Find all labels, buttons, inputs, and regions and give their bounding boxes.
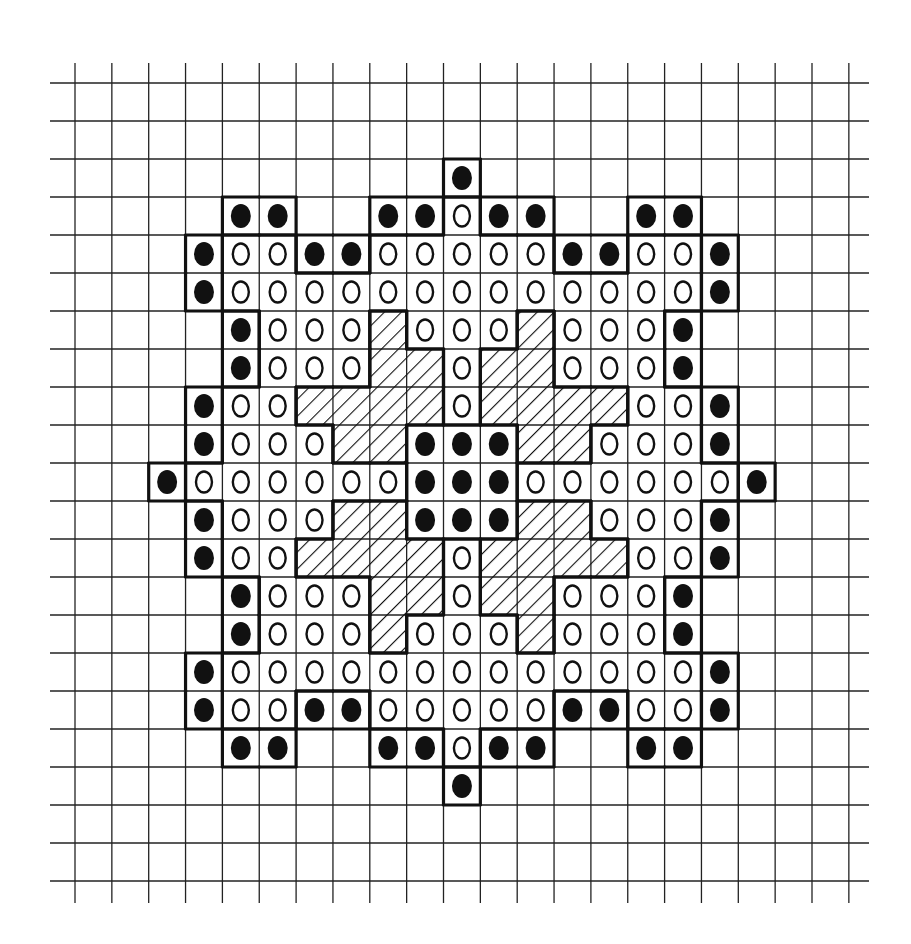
open-bead-icon <box>638 548 654 569</box>
filled-bead-icon <box>194 546 214 570</box>
open-bead-icon <box>270 434 286 455</box>
open-bead-icon <box>270 244 286 265</box>
open-bead-icon <box>380 472 396 493</box>
hatched-cell <box>554 425 591 463</box>
filled-bead-icon <box>452 508 472 532</box>
open-bead-icon <box>601 510 617 531</box>
filled-bead-icon <box>415 470 435 494</box>
filled-bead-icon <box>636 204 656 228</box>
filled-bead-icon <box>747 470 767 494</box>
hatched-cell <box>480 387 517 425</box>
open-bead-icon <box>233 282 249 303</box>
filled-bead-icon <box>194 660 214 684</box>
bead-grid-canvas <box>0 0 911 944</box>
open-bead-icon <box>417 662 433 683</box>
hatched-cell <box>333 425 370 463</box>
hatched-cell <box>370 577 407 615</box>
open-bead-icon <box>454 700 470 721</box>
open-bead-icon <box>564 472 580 493</box>
open-bead-icon <box>601 320 617 341</box>
filled-bead-icon <box>710 660 730 684</box>
filled-bead-icon <box>710 546 730 570</box>
filled-bead-icon <box>194 280 214 304</box>
open-bead-icon <box>307 510 323 531</box>
hatched-cell <box>296 387 333 425</box>
open-bead-icon <box>601 358 617 379</box>
filled-bead-icon <box>415 204 435 228</box>
filled-bead-icon <box>231 318 251 342</box>
open-bead-icon <box>270 358 286 379</box>
hatched-cell <box>517 501 554 539</box>
open-bead-icon <box>675 700 691 721</box>
hatched-cell <box>591 539 628 577</box>
hatched-cell <box>554 539 591 577</box>
open-bead-icon <box>638 396 654 417</box>
open-bead-icon <box>270 472 286 493</box>
open-bead-icon <box>638 700 654 721</box>
open-bead-icon <box>638 282 654 303</box>
filled-bead-icon <box>194 508 214 532</box>
open-bead-icon <box>454 548 470 569</box>
open-bead-icon <box>712 472 728 493</box>
open-bead-icon <box>675 434 691 455</box>
open-bead-icon <box>233 510 249 531</box>
filled-bead-icon <box>526 736 546 760</box>
open-bead-icon <box>454 738 470 759</box>
open-bead-icon <box>454 586 470 607</box>
open-bead-icon <box>343 282 359 303</box>
filled-bead-icon <box>489 736 509 760</box>
open-bead-icon <box>675 472 691 493</box>
open-bead-icon <box>564 586 580 607</box>
hatched-cell <box>554 387 591 425</box>
open-bead-icon <box>270 320 286 341</box>
open-bead-icon <box>233 244 249 265</box>
filled-bead-icon <box>710 698 730 722</box>
filled-bead-icon <box>673 356 693 380</box>
filled-bead-icon <box>231 356 251 380</box>
open-bead-icon <box>417 244 433 265</box>
open-bead-icon <box>638 472 654 493</box>
filled-bead-icon <box>231 204 251 228</box>
open-bead-icon <box>675 662 691 683</box>
filled-bead-icon <box>415 508 435 532</box>
open-bead-icon <box>638 358 654 379</box>
hatched-cell <box>370 425 407 463</box>
open-bead-icon <box>270 624 286 645</box>
open-bead-icon <box>638 434 654 455</box>
filled-bead-icon <box>673 622 693 646</box>
filled-bead-icon <box>231 584 251 608</box>
open-bead-icon <box>675 548 691 569</box>
open-bead-icon <box>343 472 359 493</box>
hatched-cell <box>591 387 628 425</box>
open-bead-icon <box>343 320 359 341</box>
filled-bead-icon <box>489 470 509 494</box>
filled-bead-icon <box>710 394 730 418</box>
hatched-cell <box>554 501 591 539</box>
filled-bead-icon <box>378 204 398 228</box>
open-bead-icon <box>454 662 470 683</box>
open-bead-icon <box>454 358 470 379</box>
filled-bead-icon <box>157 470 177 494</box>
open-bead-icon <box>270 282 286 303</box>
hatched-cell <box>333 501 370 539</box>
open-bead-icon <box>454 244 470 265</box>
open-bead-icon <box>564 320 580 341</box>
filled-bead-icon <box>489 508 509 532</box>
open-bead-icon <box>307 586 323 607</box>
hatched-cell <box>517 387 554 425</box>
filled-bead-icon <box>636 736 656 760</box>
open-bead-icon <box>528 282 544 303</box>
filled-bead-icon <box>673 736 693 760</box>
open-bead-icon <box>491 700 507 721</box>
open-bead-icon <box>196 472 212 493</box>
open-bead-icon <box>601 624 617 645</box>
open-bead-icon <box>270 586 286 607</box>
open-bead-icon <box>454 282 470 303</box>
filled-bead-icon <box>452 166 472 190</box>
hatched-cell <box>407 539 444 577</box>
open-bead-icon <box>270 700 286 721</box>
hatched-cell <box>407 577 444 615</box>
open-bead-icon <box>233 700 249 721</box>
open-bead-icon <box>270 396 286 417</box>
filled-bead-icon <box>452 432 472 456</box>
